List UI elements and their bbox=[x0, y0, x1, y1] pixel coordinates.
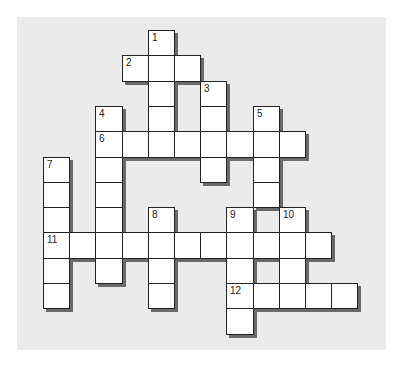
crossword-cell[interactable] bbox=[148, 258, 175, 284]
crossword-cell[interactable]: 5 bbox=[253, 106, 280, 132]
crossword-cell[interactable] bbox=[148, 131, 175, 158]
crossword-cell[interactable]: 8 bbox=[148, 207, 175, 233]
crossword-cell[interactable] bbox=[279, 232, 306, 259]
clue-number: 5 bbox=[257, 108, 263, 119]
clue-number: 1 bbox=[152, 32, 158, 43]
crossword-cell[interactable]: 4 bbox=[95, 106, 123, 132]
crossword-cell[interactable] bbox=[305, 283, 332, 309]
crossword-cell[interactable] bbox=[279, 258, 306, 284]
crossword-cell[interactable] bbox=[95, 182, 123, 208]
crossword-cell[interactable] bbox=[95, 232, 123, 259]
crossword-cell[interactable] bbox=[148, 55, 175, 82]
crossword-cell[interactable] bbox=[226, 232, 254, 259]
clue-number: 6 bbox=[99, 133, 105, 144]
crossword-cell[interactable] bbox=[279, 283, 306, 309]
crossword-cell[interactable] bbox=[253, 157, 280, 183]
crossword-cell[interactable] bbox=[253, 283, 280, 309]
crossword-cell[interactable]: 7 bbox=[43, 157, 70, 183]
crossword-cell[interactable] bbox=[148, 106, 175, 132]
crossword-cell[interactable]: 9 bbox=[226, 207, 254, 233]
crossword-cell[interactable] bbox=[200, 232, 227, 259]
crossword-cell[interactable] bbox=[200, 157, 227, 183]
crossword-cell[interactable] bbox=[226, 258, 254, 284]
clue-number: 11 bbox=[47, 234, 57, 245]
crossword-cell[interactable]: 10 bbox=[279, 207, 306, 233]
crossword-cell[interactable] bbox=[174, 55, 201, 82]
crossword-cell[interactable] bbox=[43, 258, 70, 284]
crossword-cell[interactable] bbox=[122, 232, 149, 259]
crossword-grid: 123465711891210 bbox=[0, 0, 404, 368]
clue-number: 9 bbox=[230, 209, 236, 220]
crossword-cell[interactable] bbox=[200, 131, 227, 158]
clue-number: 2 bbox=[126, 57, 132, 68]
crossword-cell[interactable] bbox=[43, 182, 70, 208]
crossword-cell[interactable] bbox=[122, 131, 149, 158]
crossword-cell[interactable]: 12 bbox=[226, 283, 254, 309]
crossword-cell[interactable] bbox=[253, 131, 280, 158]
crossword-cell[interactable] bbox=[43, 283, 70, 309]
crossword-cell[interactable]: 1 bbox=[148, 30, 175, 56]
crossword-cell[interactable] bbox=[253, 232, 280, 259]
crossword-cell[interactable] bbox=[69, 232, 96, 259]
crossword-cell[interactable]: 2 bbox=[122, 55, 149, 82]
crossword-cell[interactable] bbox=[148, 232, 175, 259]
clue-number: 4 bbox=[99, 108, 105, 119]
crossword-cell[interactable] bbox=[95, 207, 123, 233]
clue-number: 3 bbox=[204, 83, 210, 94]
crossword-cell[interactable] bbox=[253, 182, 280, 208]
crossword-cell[interactable] bbox=[331, 283, 358, 309]
crossword-cell[interactable] bbox=[43, 207, 70, 233]
crossword-cell[interactable] bbox=[226, 308, 254, 335]
crossword-cell[interactable]: 3 bbox=[200, 81, 227, 107]
clue-number: 12 bbox=[230, 285, 241, 296]
clue-number: 7 bbox=[47, 159, 53, 170]
crossword-cell[interactable]: 6 bbox=[95, 131, 123, 158]
crossword-cell[interactable] bbox=[200, 106, 227, 132]
crossword-cell[interactable] bbox=[95, 157, 123, 183]
crossword-cell[interactable] bbox=[148, 283, 175, 309]
crossword-cell[interactable] bbox=[305, 232, 332, 259]
crossword-cell[interactable] bbox=[148, 81, 175, 107]
crossword-cell[interactable] bbox=[279, 131, 306, 158]
crossword-cell[interactable] bbox=[226, 131, 254, 158]
crossword-cell[interactable] bbox=[95, 258, 123, 284]
crossword-cell[interactable] bbox=[174, 131, 201, 158]
clue-number: 10 bbox=[283, 209, 294, 220]
crossword-cell[interactable] bbox=[174, 232, 201, 259]
clue-number: 8 bbox=[152, 209, 158, 220]
crossword-cell[interactable]: 11 bbox=[43, 232, 70, 259]
